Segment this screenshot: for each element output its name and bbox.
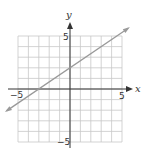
x-axis-label: x <box>135 83 141 94</box>
line-arrow-lower-icon <box>5 106 12 112</box>
x-axis-arrow-icon <box>126 86 133 92</box>
coordinate-plane: y x 5 −5 −5 5 <box>0 0 143 155</box>
y-max-label: 5 <box>63 32 69 42</box>
x-max-label: 5 <box>119 91 125 101</box>
y-axis-arrow-icon <box>67 22 73 29</box>
y-min-label: −5 <box>57 137 70 147</box>
y-axis-label: y <box>65 9 72 20</box>
x-min-label: −5 <box>10 90 23 100</box>
line-arrow-upper-icon <box>123 27 130 33</box>
